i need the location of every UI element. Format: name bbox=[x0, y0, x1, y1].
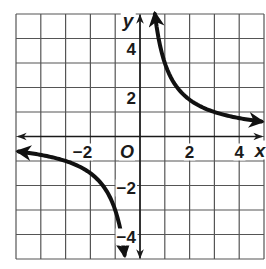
origin-label: O bbox=[120, 142, 134, 162]
x-tick-label: 2 bbox=[185, 143, 194, 162]
hyperbola-graph: −22442−2−4Oxy bbox=[0, 0, 266, 269]
x-tick-label: −2 bbox=[73, 143, 92, 162]
curve-upper-branch bbox=[155, 14, 262, 122]
tick-labels: −22442−2−4Oxy bbox=[72, 10, 266, 247]
y-axis-label: y bbox=[122, 10, 135, 31]
y-tick-label: −2 bbox=[117, 179, 136, 198]
curve-lower-branch bbox=[18, 152, 124, 256]
y-tick-label: 4 bbox=[127, 40, 137, 59]
y-tick-label: 2 bbox=[127, 89, 136, 108]
axes bbox=[18, 15, 262, 258]
x-tick-label: 4 bbox=[234, 143, 244, 162]
x-axis-label: x bbox=[254, 140, 266, 161]
y-tick-label: −4 bbox=[117, 228, 137, 247]
